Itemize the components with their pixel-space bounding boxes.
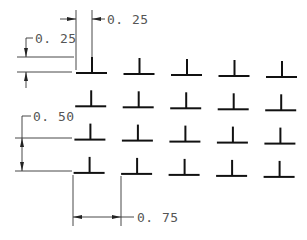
tee-symbol: [217, 127, 248, 143]
dimension-label: 0. 25: [35, 31, 77, 46]
tee-symbol: [216, 160, 247, 176]
tee-symbol: [121, 158, 152, 174]
arrow-right-icon: [112, 215, 121, 219]
arrow-left-icon: [73, 215, 82, 219]
tee-symbol: [218, 93, 249, 109]
dimension-label: 0. 75: [137, 210, 179, 225]
tee-symbol: [265, 94, 296, 110]
leader-line: [26, 38, 33, 57]
tee-symbol: [124, 58, 155, 74]
tee-symbol: [169, 126, 200, 142]
tee-symbol: [76, 57, 107, 73]
arrow-up-icon: [20, 138, 24, 147]
tee-symbol: [219, 60, 250, 76]
arrow-up-icon: [24, 72, 28, 81]
tee-symbol: [122, 125, 153, 141]
dimension-label: 0. 25: [107, 12, 149, 27]
tee-symbol: [74, 124, 105, 140]
dimension-left-stem-height: 0. 25: [17, 31, 77, 88]
dimension-column-spacing: 0. 75: [73, 175, 179, 226]
tee-symbol: [74, 157, 105, 173]
tee-symbol: [75, 90, 106, 106]
arrow-left-icon: [92, 17, 101, 21]
tee-symbol: [123, 91, 154, 107]
arrow-right-icon: [67, 17, 76, 21]
dimension-label: 0. 50: [33, 109, 75, 124]
tee-symbol: [169, 159, 200, 175]
tee-symbol: [264, 128, 295, 144]
arrow-down-icon: [20, 162, 24, 171]
tee-symbol: [171, 59, 202, 75]
drawing-canvas: 0. 25 0. 25 0. 50 0. 75: [0, 0, 307, 240]
tee-symbol: [170, 92, 201, 108]
tee-symbol: [264, 161, 295, 177]
tee-symbol: [266, 61, 297, 77]
symbol-grid: [74, 57, 297, 177]
dimension-row-spacing: 0. 50: [15, 109, 75, 171]
arrow-down-icon: [24, 48, 28, 57]
